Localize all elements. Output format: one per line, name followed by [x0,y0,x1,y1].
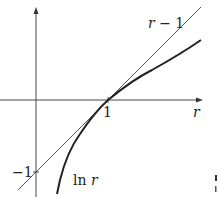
x-tick-label: 1 [103,104,112,120]
line-label-r-minus-1: r − 1 [148,15,184,31]
curve-label-ln-r: ln r [73,172,99,188]
plot: 1 −1 r r − 1 ln r [0,0,219,197]
x-axis-label: r [193,104,201,120]
curve-ln-r [57,40,201,194]
x-axis-arrow-icon [196,98,203,103]
y-axis-arrow-icon [34,7,39,14]
cropped-text-fragment [215,186,217,192]
cropped-text-fragment [215,175,217,181]
y-tick-label: −1 [12,164,33,180]
